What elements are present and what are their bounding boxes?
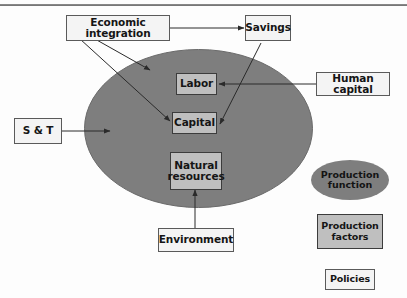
legend-policies-label: Policies: [330, 274, 370, 284]
node-environment-label: Environment: [159, 234, 233, 245]
node-capital[interactable]: Capital: [172, 112, 217, 134]
node-savings[interactable]: Savings: [245, 15, 291, 41]
node-labor[interactable]: Labor: [176, 73, 217, 95]
node-human-capital[interactable]: Human capital: [316, 72, 390, 96]
node-labor-label: Labor: [180, 78, 213, 89]
node-human-capital-label: Human capital: [317, 73, 389, 95]
node-natural-resources-label: Natural resources: [167, 160, 224, 182]
node-s-and-t-label: S & T: [23, 125, 54, 136]
legend-policies: Policies: [325, 269, 375, 290]
legend-production-function: Production function: [311, 160, 389, 200]
node-savings-label: Savings: [245, 22, 291, 33]
node-capital-label: Capital: [174, 117, 215, 128]
legend-production-factors-label: Production factors: [321, 221, 378, 241]
node-economic-integration[interactable]: Economic integration: [66, 15, 170, 41]
node-environment[interactable]: Environment: [158, 228, 234, 252]
diagram-canvas: Economic integration Savings Human capit…: [0, 0, 407, 298]
node-natural-resources[interactable]: Natural resources: [170, 152, 222, 190]
node-economic-integration-label: Economic integration: [67, 17, 169, 39]
legend-production-factors: Production factors: [317, 214, 383, 249]
edge-economic-integration-to-ellipse: [95, 39, 150, 70]
node-s-and-t[interactable]: S & T: [14, 118, 62, 144]
legend-production-function-label: Production function: [321, 170, 379, 191]
diagram-vector-layer: [0, 0, 407, 298]
